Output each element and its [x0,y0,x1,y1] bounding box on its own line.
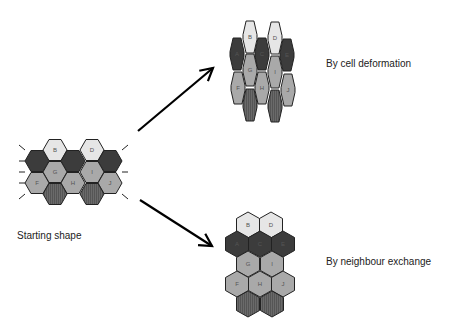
cell-label: F [236,85,240,91]
cell-label: J [287,87,290,93]
cell-label: A [235,51,239,57]
cell-label: H [258,281,262,287]
cell-label: G [248,67,253,73]
cell-label: C [258,241,263,247]
cell-label: H [260,85,264,91]
cell-label: D [90,147,95,153]
cell-label: G [246,261,251,267]
cell-deformation-grid: ABCDEGIFHJ [230,21,295,122]
arrow-1 [138,68,213,131]
cell-label: B [248,34,252,40]
cell-k [243,89,257,121]
cell-label: F [235,281,239,287]
arrowhead-icon [198,234,212,246]
cell-label: B [53,147,57,153]
cell-label: A [235,241,239,247]
arrows [138,68,213,246]
cell-l [268,90,282,122]
cell-label: E [281,241,285,247]
cell-label: J [282,281,285,287]
cell-label: B [246,222,250,228]
diagram-canvas: BDGIFHJ ABCDEGIFHJ BDACEGIFHJ [0,0,453,332]
starting-shape-label: Starting shape [17,230,82,241]
starting-shape-grid: BDGIFHJ [19,140,128,205]
neighbour-exchange-grid: BDACEGIFHJ [226,212,295,317]
cell-label: D [269,222,274,228]
cell-label: F [35,180,39,186]
cell-label: C [260,51,265,57]
cell-label: G [53,169,58,175]
cell-label: D [273,35,278,41]
neighbour-exchange-label: By neighbour exchange [326,256,431,267]
arrow-2 [140,200,212,246]
cell-label: J [109,180,112,186]
cell-deformation-label: By cell deformation [326,58,411,69]
cell-label: E [285,52,289,58]
cell-label: H [71,180,75,186]
